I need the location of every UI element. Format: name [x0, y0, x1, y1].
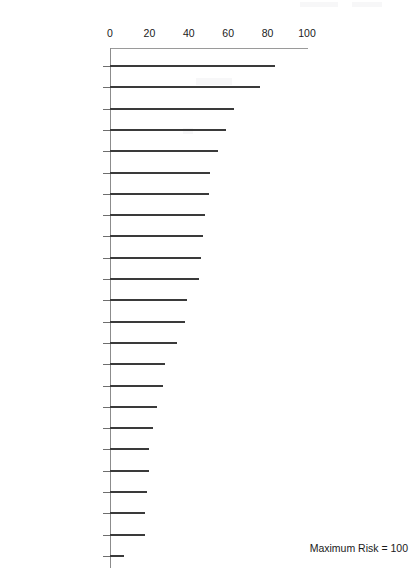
maximum-risk-annotation: Maximum Risk = 100 — [310, 542, 408, 554]
bar — [110, 150, 218, 152]
bar — [110, 512, 145, 514]
x-axis-tick-label: 80 — [262, 26, 274, 40]
bar — [110, 257, 201, 259]
bar — [110, 299, 187, 301]
scan-artifact — [196, 78, 232, 85]
bar — [110, 534, 145, 536]
bar — [110, 470, 149, 472]
risk-bar-chart: 020406080100 Maximum Risk = 100 — [0, 0, 418, 581]
x-axis-tick-label: 100 — [298, 26, 316, 40]
bar — [110, 491, 147, 493]
bar — [110, 363, 165, 365]
scan-artifact — [300, 2, 338, 7]
bar — [110, 108, 234, 110]
bar — [110, 172, 210, 174]
bar — [110, 385, 163, 387]
x-axis-tick-label: 0 — [107, 26, 113, 40]
bar — [110, 427, 153, 429]
bar — [110, 406, 157, 408]
bar — [110, 555, 124, 557]
scan-artifact — [352, 2, 382, 7]
bar — [110, 448, 149, 450]
bar — [110, 235, 203, 237]
bar — [110, 278, 199, 280]
axis-top-rule — [110, 48, 308, 49]
bar — [110, 86, 260, 88]
bar — [110, 321, 185, 323]
x-axis-tick-label: 20 — [144, 26, 156, 40]
category-axis-line — [110, 48, 111, 568]
bar — [110, 65, 275, 67]
bar — [110, 193, 209, 195]
bar — [110, 129, 226, 131]
bar — [110, 342, 177, 344]
x-axis-tick-labels: 020406080100 — [0, 26, 418, 42]
x-axis-tick-label: 40 — [183, 26, 195, 40]
x-axis-tick-label: 60 — [222, 26, 234, 40]
bar — [110, 214, 205, 216]
